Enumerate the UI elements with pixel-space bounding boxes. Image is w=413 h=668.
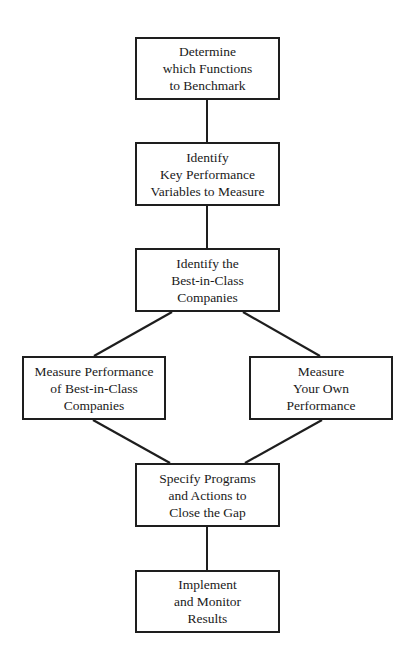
node-specify-programs: Specify Programs and Actions to Close th… — [135, 463, 280, 527]
node-line: Identify — [186, 149, 229, 166]
node-line: Results — [188, 610, 228, 627]
node-line: Companies — [177, 289, 238, 306]
node-identify-best-in-class: Identify the Best-in-Class Companies — [135, 248, 280, 312]
node-measure-best-in-class: Measure Performance of Best-in-Class Com… — [22, 356, 166, 420]
node-line: Measure — [298, 363, 344, 380]
connector-n3-n4 — [94, 312, 172, 356]
node-line: to Benchmark — [169, 77, 245, 94]
node-line: Variables to Measure — [151, 183, 265, 200]
node-line: Performance — [287, 397, 356, 414]
connector-n3-n5 — [243, 312, 320, 356]
connector-layer — [0, 0, 413, 668]
node-line: Specify Programs — [159, 470, 255, 487]
node-line: Close the Gap — [169, 504, 246, 521]
node-line: Determine — [179, 43, 236, 60]
node-line: which Functions — [163, 60, 253, 77]
node-line: Companies — [64, 397, 125, 414]
node-implement-monitor: Implement and Monitor Results — [135, 570, 280, 633]
node-line: Measure Performance — [35, 363, 154, 380]
connector-n5-n6 — [245, 420, 322, 463]
node-line: and Actions to — [169, 487, 247, 504]
node-measure-own-performance: Measure Your Own Performance — [249, 356, 393, 420]
node-line: Identify the — [176, 255, 239, 272]
node-line: Best-in-Class — [171, 272, 244, 289]
node-line: Implement — [178, 576, 236, 593]
connector-n4-n6 — [93, 420, 170, 463]
node-line: Key Performance — [160, 166, 255, 183]
node-line: and Monitor — [174, 593, 241, 610]
node-line: Your Own — [293, 380, 349, 397]
node-determine-functions: Determine which Functions to Benchmark — [135, 37, 280, 100]
node-identify-key-variables: Identify Key Performance Variables to Me… — [135, 142, 280, 206]
node-line: of Best-in-Class — [50, 380, 137, 397]
